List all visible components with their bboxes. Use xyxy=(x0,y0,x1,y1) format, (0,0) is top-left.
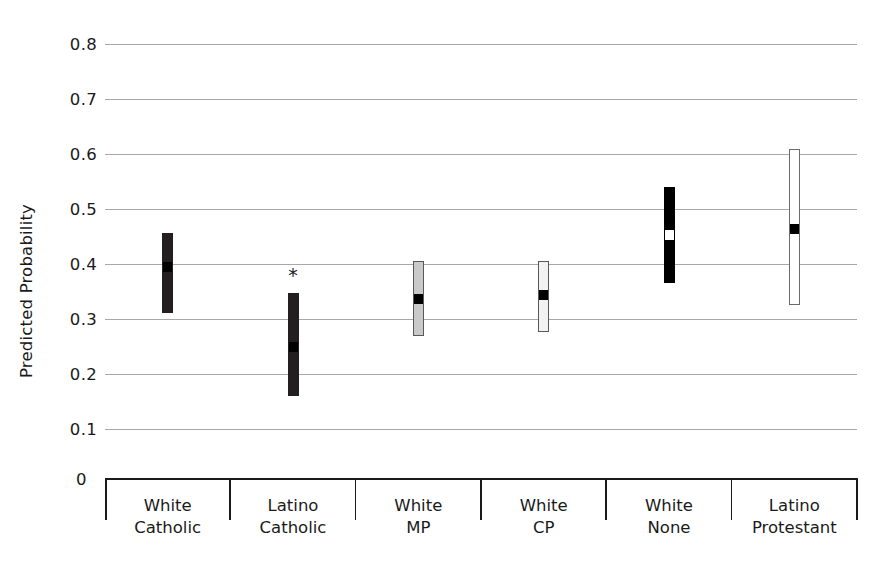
plot-area: * xyxy=(105,20,857,480)
y-tick-0.2: 0.2 xyxy=(51,365,97,384)
category-label-line: Catholic xyxy=(260,517,327,539)
category-label-line: Latino xyxy=(260,495,327,517)
category-divider xyxy=(105,478,107,520)
category-label-line: CP xyxy=(520,517,568,539)
category-label-white-catholic: WhiteCatholic xyxy=(134,495,201,539)
y-tick-0.4: 0.4 xyxy=(51,255,97,274)
gridline-0.4 xyxy=(105,264,857,265)
confidence-interval-bar xyxy=(413,261,424,335)
category-label-line: White xyxy=(394,495,442,517)
y-tick-0.7: 0.7 xyxy=(51,90,97,109)
category-label-latino-catholic: LatinoCatholic xyxy=(260,495,327,539)
y-tick-0.5: 0.5 xyxy=(51,200,97,219)
point-estimate-marker xyxy=(414,294,423,304)
gridline-0.2 xyxy=(105,374,857,375)
category-divider xyxy=(731,478,733,520)
gridline-0.8 xyxy=(105,44,857,45)
significance-asterisk: * xyxy=(288,266,298,285)
confidence-interval-bar xyxy=(789,149,800,305)
confidence-interval-bar xyxy=(664,187,675,283)
point-estimate-marker xyxy=(539,290,548,300)
point-estimate-marker xyxy=(163,262,172,272)
confidence-interval-bar xyxy=(538,261,549,331)
category-label-white-cp: WhiteCP xyxy=(520,495,568,539)
gridline-0.7 xyxy=(105,99,857,100)
category-label-line: Protestant xyxy=(752,517,837,539)
predicted-probability-chart: Predicted Probability 0.8 0.7 0.6 0.5 0.… xyxy=(0,0,872,582)
category-label-latino-protestant: LatinoProtestant xyxy=(752,495,837,539)
category-divider xyxy=(229,478,231,520)
category-divider xyxy=(480,478,482,520)
category-label-line: None xyxy=(645,517,693,539)
category-divider xyxy=(605,478,607,520)
category-label-line: White xyxy=(134,495,201,517)
y-tick-0.1: 0.1 xyxy=(51,420,97,439)
y-tick-0.8: 0.8 xyxy=(51,35,97,54)
point-estimate-marker xyxy=(790,224,799,234)
gridline-0.3 xyxy=(105,319,857,320)
confidence-interval-bar xyxy=(162,233,173,313)
category-label-white-mp: WhiteMP xyxy=(394,495,442,539)
category-label-white-none: WhiteNone xyxy=(645,495,693,539)
gridline-0.5 xyxy=(105,209,857,210)
category-label-line: White xyxy=(645,495,693,517)
category-label-line: White xyxy=(520,495,568,517)
category-label-line: MP xyxy=(394,517,442,539)
y-tick-0.3: 0.3 xyxy=(51,310,97,329)
point-estimate-marker xyxy=(289,342,298,352)
y-tick-0.6: 0.6 xyxy=(51,145,97,164)
category-divider xyxy=(856,478,858,520)
category-label-line: Latino xyxy=(752,495,837,517)
y-axis-tick-labels: 0.8 0.7 0.6 0.5 0.4 0.3 0.2 0.1 xyxy=(45,20,97,480)
point-estimate-marker xyxy=(665,230,674,240)
gridline-0.1 xyxy=(105,429,857,430)
confidence-interval-bar xyxy=(288,293,299,396)
category-label-line: Catholic xyxy=(134,517,201,539)
y-axis-origin-label: 0 xyxy=(76,470,87,489)
category-divider xyxy=(355,478,357,520)
gridline-0.6 xyxy=(105,154,857,155)
